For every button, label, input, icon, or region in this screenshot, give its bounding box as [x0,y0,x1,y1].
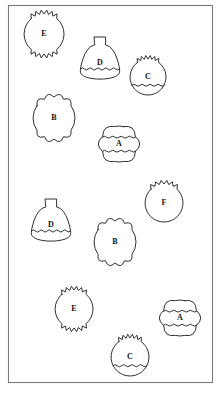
shape-label: D [97,58,103,67]
shape-label: A [116,139,122,148]
shape-d-7[interactable]: D [31,199,70,241]
shape-diagram: EDCBAFDBEAC [0,0,223,401]
shapes-layer: EDCBAFDBEAC [24,10,201,376]
shape-label: E [41,29,46,38]
shape-label: F [162,198,167,207]
shape-f-6[interactable]: F [145,180,183,222]
shape-label: B [112,237,118,246]
shape-e-1[interactable]: E [24,10,64,58]
shape-label: C [145,72,151,81]
shape-b-8[interactable]: B [94,218,136,265]
shape-label: C [127,352,133,361]
shape-c-3[interactable]: C [130,56,166,95]
diagram-canvas: EDCBAFDBEAC [0,0,223,401]
shape-a-10[interactable]: A [159,300,200,336]
shape-label: E [71,304,76,313]
shape-d-2[interactable]: D [80,37,119,79]
shape-b-4[interactable]: B [33,94,75,141]
shape-e-9[interactable]: E [55,286,93,331]
shape-label: D [48,220,54,229]
shape-c-11[interactable]: C [111,334,149,376]
shape-label: B [51,113,57,122]
shape-label: A [177,313,183,322]
shape-a-5[interactable]: A [98,126,139,162]
